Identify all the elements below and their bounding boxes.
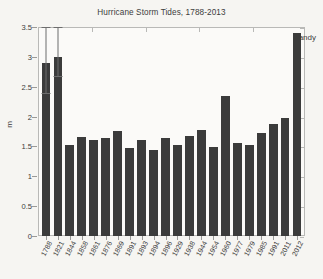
y-axis-tick-label: 3.5 (21, 23, 32, 32)
chart-title: Hurricane Storm Tides, 1788-2013 (0, 8, 323, 17)
bar-slot (100, 27, 112, 236)
x-axis-tick: 1788 (40, 236, 52, 279)
x-axis-tick: 1894 (148, 236, 160, 279)
y-axis-tick-label: 0.5 (21, 202, 32, 211)
bar-slot (231, 27, 243, 236)
bar (137, 140, 146, 236)
bar (269, 124, 278, 236)
bar-slot (160, 27, 172, 236)
y-axis-tick-label: 1.5 (21, 142, 32, 151)
y-axis-tick-mark (32, 206, 37, 207)
bar (281, 118, 290, 236)
x-axis-tick: 1960 (219, 236, 231, 279)
annotation-sandy: Sandy (293, 33, 316, 42)
bar-slot (279, 27, 291, 236)
x-axis-tick-label: 2012 (291, 240, 305, 258)
bar (89, 140, 98, 236)
x-axis: 1788182118441858186118761869189118931894… (38, 236, 305, 279)
error-bar-cap (41, 27, 50, 28)
x-axis-tick: 1991 (267, 236, 279, 279)
error-bar (57, 27, 58, 76)
bar-slot (207, 27, 219, 236)
x-axis-tick: 1896 (160, 236, 172, 279)
bar-slot (64, 27, 76, 236)
y-axis-tick-mark (32, 236, 37, 237)
y-axis-tick-mark (32, 176, 37, 177)
x-axis-tick: 2011 (279, 236, 291, 279)
x-axis-tick: 1844 (64, 236, 76, 279)
x-axis-tick: 1929 (171, 236, 183, 279)
x-axis-tick: 1891 (124, 236, 136, 279)
bar (149, 150, 158, 236)
x-axis-tick: 1944 (195, 236, 207, 279)
y-axis-tick-mark (32, 57, 37, 58)
bar-slot (148, 27, 160, 236)
x-axis-tick: 1876 (100, 236, 112, 279)
bar (233, 143, 242, 236)
bar (54, 57, 63, 236)
bar (65, 145, 74, 236)
bar (125, 148, 134, 236)
bar-slot (183, 27, 195, 236)
x-axis-tick: 1893 (136, 236, 148, 279)
error-bar-cap (41, 93, 50, 94)
bar (257, 133, 266, 236)
y-axis-tick-label: 2.5 (21, 82, 32, 91)
bar-slot (291, 27, 303, 236)
bar-slot (136, 27, 148, 236)
x-axis-tick: 1938 (183, 236, 195, 279)
bar-slot (112, 27, 124, 236)
y-axis-tick-mark (32, 117, 37, 118)
x-axis-tick: 2012 (291, 236, 303, 279)
bar-series (38, 27, 305, 236)
x-axis-tick: 1977 (231, 236, 243, 279)
y-axis-tick-mark (32, 27, 37, 28)
bar-slot (124, 27, 136, 236)
bar (197, 130, 206, 236)
bar-slot (219, 27, 231, 236)
bar-slot (76, 27, 88, 236)
x-axis-tick: 1821 (52, 236, 64, 279)
y-axis-label: m (5, 121, 14, 128)
bar-slot (88, 27, 100, 236)
bar (245, 145, 254, 236)
bar-slot (40, 27, 52, 236)
y-axis: 00.511.522.533.5 (0, 27, 38, 236)
x-axis-tick: 1985 (255, 236, 267, 279)
bar (173, 145, 182, 236)
error-bar-cap (53, 27, 62, 28)
x-axis-tick: 1861 (88, 236, 100, 279)
bar-slot (243, 27, 255, 236)
bar-slot (267, 27, 279, 236)
x-axis-tick: 1869 (112, 236, 124, 279)
bar (113, 131, 122, 236)
bar (101, 138, 110, 236)
bar-slot (52, 27, 64, 236)
x-axis-tick: 1979 (243, 236, 255, 279)
bar-slot (171, 27, 183, 236)
x-axis-tick: 1954 (207, 236, 219, 279)
x-axis-tick: 1858 (76, 236, 88, 279)
error-bar (45, 27, 46, 93)
bar (221, 96, 230, 236)
y-axis-tick-mark (32, 146, 37, 147)
error-bar-cap (53, 76, 62, 77)
bar-slot (195, 27, 207, 236)
figure-container: Hurricane Storm Tides, 1788-2013 00.511.… (0, 0, 323, 279)
bar (293, 33, 302, 236)
bar (209, 147, 218, 236)
bar (185, 136, 194, 236)
bar-slot (255, 27, 267, 236)
y-axis-tick-mark (32, 87, 37, 88)
bar (161, 138, 170, 236)
bar (77, 137, 86, 236)
